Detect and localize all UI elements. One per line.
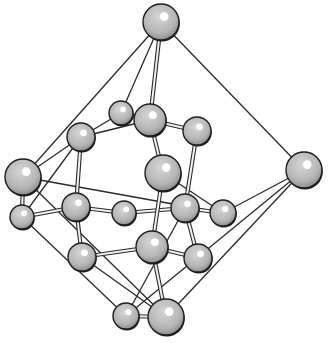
atom-a15: [136, 231, 169, 265]
frame-line: [161, 22, 304, 170]
atom-highlight: [80, 129, 87, 136]
atom-a2: [109, 101, 134, 127]
atom-sphere: [10, 205, 34, 229]
atom-highlight: [123, 207, 129, 213]
atom-sphere: [143, 4, 179, 40]
atom-a10: [62, 193, 91, 223]
atom-a9: [10, 205, 35, 231]
atom-a7: [145, 155, 182, 193]
atom-sphere: [184, 244, 212, 272]
atom-highlight: [222, 206, 228, 212]
atom-a16: [184, 244, 213, 274]
crystal-diagram: [0, 0, 329, 343]
bond-sticks: [22, 22, 223, 317]
atom-sphere: [68, 243, 96, 271]
atom-a18: [148, 299, 185, 337]
atom-sphere: [134, 104, 166, 136]
atom-a13: [210, 200, 237, 228]
atom-sphere: [210, 200, 236, 226]
atom-a4: [67, 123, 96, 153]
atom-sphere: [113, 303, 139, 329]
atom-sphere: [136, 231, 168, 263]
frame-line: [23, 22, 161, 177]
atom-sphere: [286, 152, 322, 188]
atom-highlight: [151, 238, 159, 246]
atom-sphere: [5, 159, 41, 195]
atom-highlight: [149, 111, 157, 119]
atom-a14: [68, 243, 97, 273]
atom-highlight: [162, 163, 171, 172]
atom-sphere: [183, 117, 211, 145]
atom-highlight: [22, 167, 31, 176]
crystal-structure-svg: [0, 0, 329, 343]
atom-highlight: [21, 211, 27, 217]
atoms: [5, 4, 323, 337]
atom-sphere: [67, 123, 95, 151]
atom-highlight: [184, 200, 191, 207]
atom-a17: [113, 303, 140, 331]
atom-highlight: [165, 307, 174, 316]
atom-highlight: [160, 12, 169, 21]
atom-sphere: [112, 201, 136, 225]
atom-a3: [134, 104, 167, 138]
atom-a11: [112, 201, 137, 227]
atom-sphere: [148, 299, 184, 335]
atom-sphere: [109, 101, 133, 125]
atom-a5: [183, 117, 212, 147]
atom-sphere: [62, 193, 90, 221]
atom-highlight: [196, 123, 203, 130]
atom-highlight: [75, 199, 82, 206]
atom-sphere: [171, 194, 199, 222]
atom-highlight: [81, 249, 88, 256]
atom-highlight: [125, 309, 131, 315]
atom-a6: [5, 159, 42, 197]
atom-highlight: [303, 160, 312, 169]
atom-a12: [171, 194, 200, 224]
atom-highlight: [197, 250, 204, 257]
atom-sphere: [145, 155, 181, 191]
atom-highlight: [120, 107, 126, 113]
